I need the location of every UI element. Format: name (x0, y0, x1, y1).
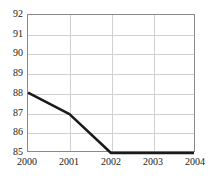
y-axis-tick-label: 89 (13, 68, 23, 78)
y-axis-tick-label: 90 (13, 48, 23, 58)
y-axis-tick-label: 86 (13, 127, 23, 137)
x-axis-tick-label: 2003 (143, 157, 163, 167)
y-axis-tick-label: 87 (13, 108, 23, 118)
x-axis-tick-label: 2004 (185, 157, 205, 167)
plot-area (27, 14, 195, 152)
series-layer (28, 15, 194, 151)
y-axis-tick-label: 88 (13, 88, 23, 98)
x-axis-tick-label: 2002 (101, 157, 121, 167)
y-axis-tick-label: 92 (13, 9, 23, 19)
line-chart: 9291908988878685 20002001200220032004 (0, 0, 213, 183)
y-axis-tick-label: 91 (13, 29, 23, 39)
x-axis-tick-label: 2000 (17, 157, 37, 167)
x-axis-tick-label: 2001 (59, 157, 79, 167)
data-line-series-1 (28, 93, 194, 153)
